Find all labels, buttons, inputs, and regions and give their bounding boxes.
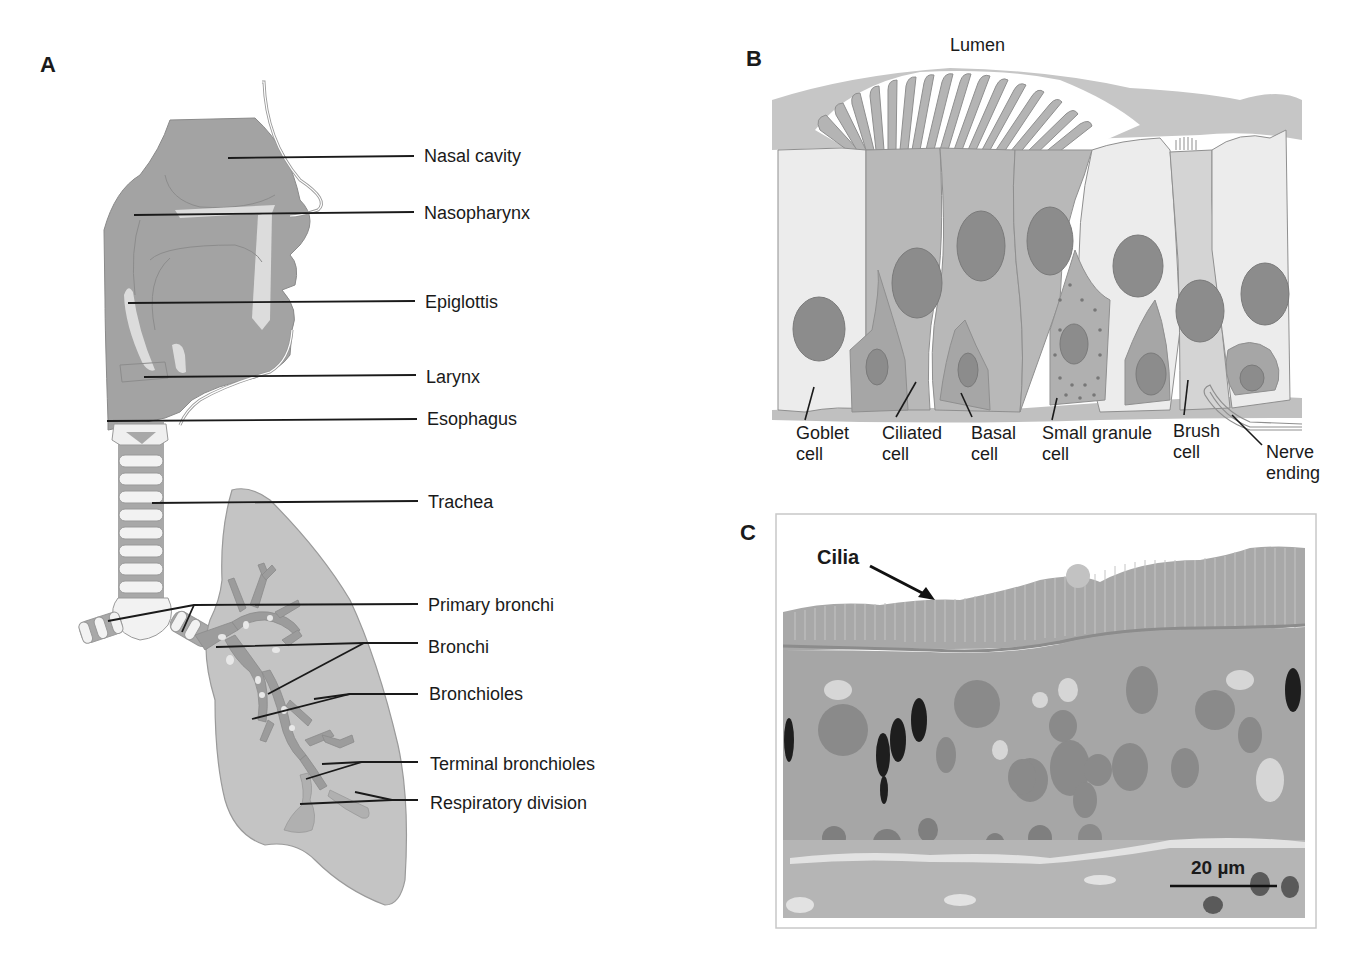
label-cilia: Cilia (817, 546, 859, 569)
label-scale-bar: 20 µm (1191, 857, 1245, 879)
panel-c-micrograph (0, 0, 1371, 970)
